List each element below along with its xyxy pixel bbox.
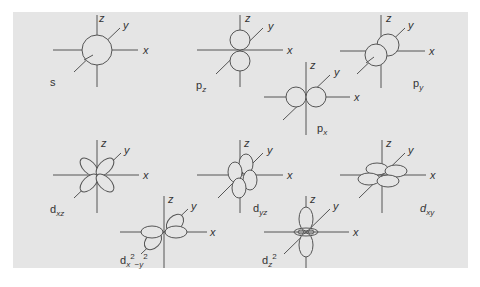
orbital-dxy: z y x dxy	[340, 137, 436, 217]
svg-text:y: y	[267, 20, 275, 32]
svg-text:y: y	[407, 144, 415, 156]
svg-text:z: z	[309, 193, 316, 205]
svg-text:y: y	[407, 19, 415, 31]
y-label: y	[122, 19, 130, 31]
orbital-label-dz2: dz2	[262, 252, 277, 269]
svg-text:x: x	[286, 169, 293, 181]
orbital-pz: z y x pz	[196, 12, 293, 94]
z-label: z	[98, 12, 105, 24]
orbital-label-px: px	[317, 122, 328, 137]
orbital-py: z y x py	[340, 12, 435, 92]
orbital-label-pz: pz	[196, 79, 206, 94]
orbital-s: z y x s	[50, 12, 149, 88]
dz2-lobe-lower	[299, 233, 313, 257]
orbital-label-s: s	[50, 76, 56, 88]
svg-text:x: x	[428, 45, 435, 57]
svg-text:x: x	[352, 226, 359, 238]
svg-text:z: z	[167, 193, 174, 205]
px-lobe-left	[286, 87, 306, 107]
svg-text:z: z	[385, 12, 392, 24]
orbital-dz2: z y x dz2	[262, 193, 359, 269]
orbital-label-py: py	[413, 77, 424, 92]
svg-text:y: y	[333, 66, 341, 78]
orbital-label-dyz: dyz	[253, 202, 267, 217]
orbital-diagram: z y x s z y x pz z y x py z y	[0, 0, 480, 287]
orbital-px: z y x px	[264, 59, 360, 137]
x-label: x	[142, 44, 149, 56]
orbital-label-dxy: dxy	[420, 202, 435, 217]
svg-text:x: x	[353, 91, 360, 103]
orbital-dxz: z y x dxz	[50, 137, 149, 218]
svg-text:x: x	[209, 226, 216, 238]
svg-text:z: z	[309, 59, 316, 71]
svg-text:y: y	[332, 200, 340, 212]
orbital-dyz: z y x dyz	[197, 137, 293, 217]
svg-text:z: z	[244, 12, 251, 24]
orbital-label-dxz: dxz	[50, 203, 64, 218]
s-lobe	[82, 35, 112, 65]
px-lobe-right	[306, 87, 326, 107]
svg-text:x: x	[429, 169, 436, 181]
orbital-label-dx2-y2: dx2−y2	[120, 252, 148, 269]
orbital-dx2-y2: z y x dx2−y2	[120, 193, 216, 269]
svg-text:y: y	[123, 144, 131, 156]
svg-text:y: y	[190, 200, 198, 212]
svg-text:z: z	[385, 137, 392, 149]
svg-text:x: x	[286, 44, 293, 56]
svg-text:z: z	[100, 137, 107, 149]
svg-text:x: x	[142, 169, 149, 181]
dz2-lobe-upper	[299, 207, 313, 231]
py-lobe-front	[365, 44, 387, 66]
svg-text:z: z	[243, 137, 250, 149]
svg-text:y: y	[266, 144, 274, 156]
